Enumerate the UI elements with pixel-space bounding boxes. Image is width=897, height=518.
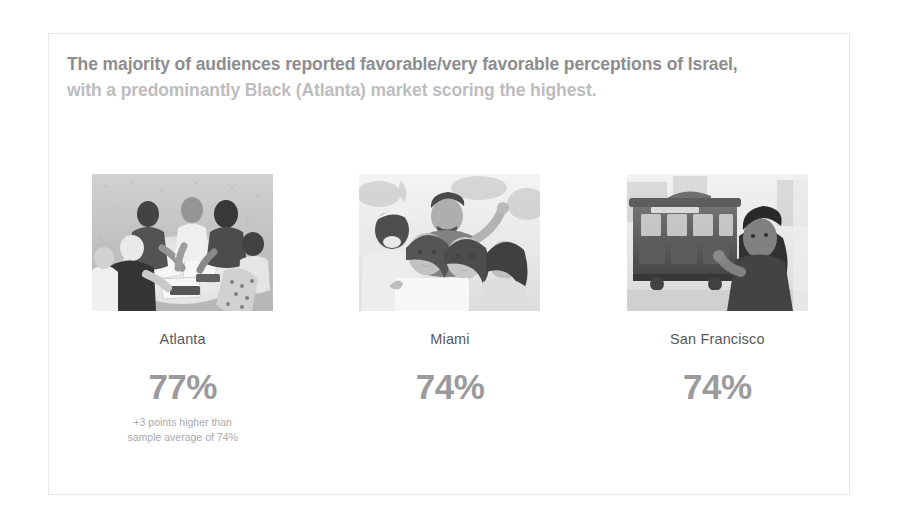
slide-root: The majority of audiences reported favor… [0,0,897,518]
headline-lead: The majority of audiences reported favor… [67,54,738,74]
city-label-atlanta: Atlanta [160,331,206,347]
miami-group-photo [359,174,540,311]
san-francisco-photo-graphic [627,174,808,311]
headline-tail: with a predominantly Black (Atlanta) mar… [67,80,596,100]
atlanta-photo-graphic [92,174,273,311]
city-label-san-francisco: San Francisco [670,331,765,347]
metric-column-miami: Miami 74% [316,174,583,415]
page-title: The majority of audiences reported favor… [67,52,767,103]
san-francisco-photo [627,174,808,311]
city-label-miami: Miami [430,331,469,347]
metric-column-atlanta: Atlanta 77% +3 points higher than sample… [49,174,316,445]
footnote-atlanta: +3 points higher than sample average of … [128,415,238,445]
percent-value-miami: 74% [416,369,485,404]
metric-column-san-francisco: San Francisco 74% [584,174,851,415]
atlanta-group-photo [92,174,273,311]
metric-columns: Atlanta 77% +3 points higher than sample… [49,174,851,445]
miami-photo-graphic [359,174,540,311]
percent-value-atlanta: 77% [148,369,217,404]
content-card: The majority of audiences reported favor… [48,33,850,495]
percent-value-san-francisco: 74% [683,369,752,404]
